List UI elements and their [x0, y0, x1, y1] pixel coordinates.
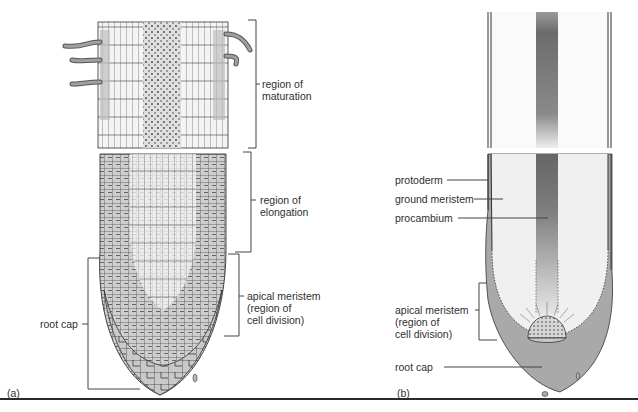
label-line: (region of	[247, 302, 321, 314]
label-line: cell division)	[247, 314, 321, 326]
figure-bottom-rule	[0, 398, 638, 400]
label-apical-meristem-b: apical meristem (region of cell division…	[395, 304, 469, 340]
label-ground-meristem: ground meristem	[395, 193, 474, 205]
label-line: elongation	[260, 206, 308, 218]
label-line: maturation	[262, 90, 312, 102]
label-region-of-maturation: region of maturation	[262, 78, 312, 102]
label-line: region of	[262, 78, 312, 90]
label-line: cell division)	[395, 328, 469, 340]
label-apical-meristem-a: apical meristem (region of cell division…	[247, 290, 321, 326]
diagram-drawing	[0, 0, 638, 412]
label-root-cap-a: root cap	[40, 318, 78, 330]
label-line: apical meristem	[247, 290, 321, 302]
root-tip-figure: region of maturation region of elongatio…	[0, 0, 638, 412]
label-line: apical meristem	[395, 304, 469, 316]
label-region-of-elongation: region of elongation	[260, 194, 308, 218]
label-procambium: procambium	[395, 212, 453, 224]
panel-a-drawing	[65, 20, 260, 395]
label-line: (region of	[395, 316, 469, 328]
label-root-cap-b: root cap	[395, 361, 433, 373]
label-protoderm: protoderm	[395, 174, 443, 186]
label-line: region of	[260, 194, 308, 206]
